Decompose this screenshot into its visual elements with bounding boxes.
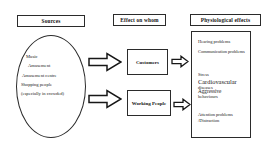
- sources-list: Music Amusement Amusement centre Shoppin…: [21, 52, 85, 98]
- column-header-sources: Sources: [17, 15, 85, 27]
- sources-list-item: (especially in crowded): [21, 89, 85, 98]
- column-header-effect-on-whom: Effect on whom: [113, 14, 166, 26]
- diagram-canvas: Sources Effect on whom Physiological eff…: [0, 0, 271, 152]
- arrow-right-icon: [88, 89, 122, 109]
- column-header-effect-on-whom-label: Effect on whom: [120, 17, 158, 23]
- affected-group-working-people-label: Working People: [132, 101, 166, 106]
- effect-item: Hearing problems: [198, 39, 252, 45]
- arrow-right-icon: [88, 52, 122, 72]
- effect-item: behaviours: [198, 94, 252, 100]
- arrow-right-icon: [171, 55, 189, 68]
- column-header-physiological-effects: Physiological effects: [190, 14, 261, 26]
- sources-list-item: Amusement: [21, 61, 85, 70]
- affected-group-working-people: Working People: [127, 90, 171, 116]
- effect-item: Communication problems: [198, 49, 252, 55]
- sources-list-item: Shopping people: [21, 80, 85, 89]
- effect-item: /Distraction: [198, 118, 252, 124]
- column-header-physiological-effects-label: Physiological effects: [201, 17, 250, 23]
- effect-item: Cardiovascular: [198, 78, 252, 85]
- sources-list-item: Music: [21, 52, 85, 61]
- affected-group-customers-label: Customers: [136, 60, 159, 65]
- affected-group-customers: Customers: [127, 49, 168, 75]
- sources-list-item: Amusement centre: [21, 71, 85, 80]
- column-header-sources-label: Sources: [42, 18, 61, 24]
- arrow-right-icon: [173, 98, 191, 111]
- physiological-effects-panel: Hearing problems Communication problems …: [191, 31, 251, 138]
